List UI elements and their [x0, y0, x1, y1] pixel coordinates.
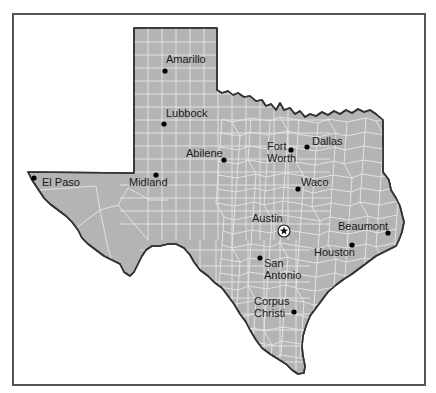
- city-dot-icon: [291, 309, 296, 314]
- city-label: Waco: [301, 176, 329, 188]
- city-label: Houston: [314, 246, 355, 258]
- city-dot-icon: [31, 175, 36, 180]
- city-label: Worth: [267, 152, 296, 164]
- city-dot-icon: [304, 144, 309, 149]
- city-label: Antonio: [264, 269, 301, 281]
- city-label: El Paso: [42, 176, 80, 188]
- city-label: Beaumont: [338, 220, 388, 232]
- city-label: Midland: [129, 176, 168, 188]
- city-label: Corpus: [254, 295, 290, 307]
- city-label: Abilene: [186, 147, 223, 159]
- city-label: Fort: [267, 140, 287, 152]
- city-label: San: [264, 257, 284, 269]
- texas-map: AmarilloLubbockAbileneMidlandEl PasoFort…: [0, 0, 436, 393]
- city-label: Christi: [254, 307, 285, 319]
- city-label: Austin: [252, 212, 283, 224]
- city-dot-icon: [295, 186, 300, 191]
- city-dot-icon: [257, 255, 262, 260]
- city-dot-icon: [161, 121, 166, 126]
- city-label: Lubbock: [166, 107, 208, 119]
- city-dot-icon: [162, 68, 167, 73]
- city-label: Amarillo: [166, 53, 206, 65]
- city-label: Dallas: [312, 135, 343, 147]
